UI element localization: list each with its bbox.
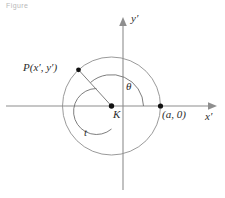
x-axis-arrowhead	[208, 102, 217, 110]
point-P	[76, 67, 81, 72]
label-angle-theta: θ	[126, 80, 131, 92]
y-axis-arrowhead	[119, 17, 127, 26]
label-point-a-0: (a, 0)	[162, 108, 186, 120]
label-y-axis: y′	[131, 12, 138, 24]
label-origin-k: K	[113, 108, 120, 120]
arc-t	[74, 89, 112, 135]
figure-container: Figure P(x′, y′) K θ t (a, 0) x′ y′	[0, 0, 225, 198]
label-arc-t: t	[84, 126, 87, 138]
diagram-canvas	[0, 0, 225, 198]
label-point-p: P(x′, y′)	[23, 61, 57, 73]
label-x-axis: x′	[205, 110, 212, 122]
arc-theta	[91, 75, 144, 106]
